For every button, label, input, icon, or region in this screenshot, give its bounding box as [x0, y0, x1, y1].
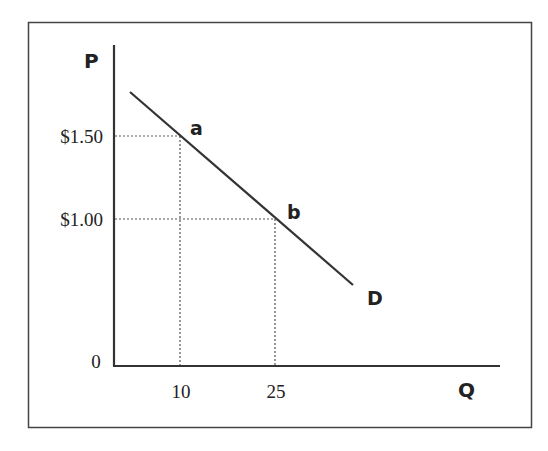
- y-tick-1-00: $1.00: [60, 209, 103, 230]
- x-axis-label: Q: [458, 378, 475, 402]
- reference-lines: [115, 136, 275, 365]
- demand-curve: [130, 92, 353, 285]
- y-axis-label: P: [84, 49, 99, 73]
- y-tick-1-50: $1.50: [60, 126, 103, 147]
- x-tick-10: 10: [172, 381, 191, 402]
- point-b-label: b: [287, 201, 301, 223]
- demand-curve-label: D: [367, 287, 383, 309]
- point-a-label: a: [190, 117, 203, 139]
- x-tick-25: 25: [267, 381, 286, 402]
- demand-chart: P Q $1.50 $1.00 0 10 25 a b D: [0, 0, 548, 451]
- origin-label: 0: [91, 351, 101, 372]
